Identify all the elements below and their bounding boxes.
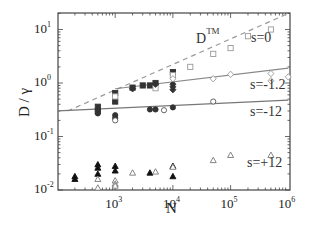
data-point-square bbox=[113, 94, 118, 99]
y-axis-title: D / γ bbox=[16, 88, 33, 117]
x-tick-label: 105 bbox=[221, 196, 238, 212]
label-s-minus-12: s=-12 bbox=[250, 104, 282, 120]
data-point-triangle bbox=[170, 173, 176, 178]
data-point-triangle bbox=[130, 170, 136, 175]
data-point-circle bbox=[170, 105, 175, 110]
data-point-square bbox=[245, 34, 250, 39]
fit-line-0 bbox=[68, 13, 289, 111]
y-tick-label: 10-2 bbox=[34, 181, 54, 197]
data-point-square bbox=[113, 99, 118, 104]
y-tick-label: 101 bbox=[34, 21, 51, 37]
x-tick-label: 106 bbox=[278, 196, 295, 212]
x-tick-label: 103 bbox=[105, 196, 122, 212]
label-s-0: s=0 bbox=[251, 30, 271, 46]
data-point-square bbox=[188, 64, 193, 69]
label-s-plus-12: s=+12 bbox=[247, 155, 282, 171]
data-point-circle bbox=[161, 108, 166, 113]
data-point-circle bbox=[147, 107, 152, 112]
data-point-diamond bbox=[268, 70, 274, 76]
data-point-triangle bbox=[210, 157, 216, 162]
data-point-square bbox=[211, 51, 216, 56]
data-point-diamond bbox=[228, 71, 234, 77]
data-point-triangle bbox=[228, 152, 234, 157]
y-tick-label: 100 bbox=[34, 74, 51, 90]
data-point-triangle bbox=[95, 176, 101, 181]
dtm-annotation: DTM bbox=[196, 29, 220, 47]
data-point-triangle bbox=[95, 185, 101, 190]
x-axis-title: N bbox=[166, 200, 177, 217]
data-point-square bbox=[147, 83, 152, 88]
fit-lines bbox=[58, 13, 288, 111]
data-point-circle bbox=[211, 99, 216, 104]
data-point-triangle bbox=[153, 169, 159, 174]
data-point-square bbox=[140, 83, 145, 88]
label-s-minus-1-2: s=-1.2 bbox=[250, 77, 286, 93]
y-tick-label: 10-1 bbox=[34, 128, 54, 144]
data-point-circle bbox=[113, 118, 118, 123]
data-point-circle bbox=[153, 107, 158, 112]
data-point-circle bbox=[95, 111, 100, 116]
data-point-square bbox=[228, 45, 233, 50]
